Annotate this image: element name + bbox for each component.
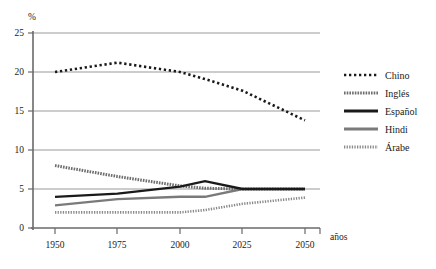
y-tick-0: 0 (19, 223, 24, 233)
y-axis (28, 31, 33, 230)
x-tick-2025: 2025 (233, 240, 252, 250)
y-tick-5: 5 (19, 184, 24, 194)
x-axis-unit-label: años (330, 232, 348, 242)
series-line-hindi (55, 189, 305, 205)
y-tick-10: 10 (15, 145, 25, 155)
series-lines (55, 63, 305, 213)
series-line-arabe (55, 198, 305, 213)
legend-label-arabe: Árabe (385, 142, 410, 153)
legend-label-espanol: Español (385, 106, 417, 117)
series-line-chino (55, 63, 305, 121)
y-tick-15: 15 (15, 106, 25, 116)
x-tick-2000: 2000 (171, 240, 190, 250)
x-tick-1975: 1975 (108, 240, 127, 250)
legend-label-chino: Chino (385, 70, 409, 81)
legend-label-hindi: Hindi (385, 124, 408, 135)
gridlines (33, 33, 320, 189)
chart-svg: 25 20 15 10 5 0 % 1950 1975 2000 2025 20… (0, 0, 436, 269)
x-tick-2050: 2050 (296, 240, 315, 250)
x-tick-1950: 1950 (46, 240, 65, 250)
y-tick-25: 25 (15, 28, 25, 38)
chart-legend: Chino Inglés Español Hindi Árabe (344, 70, 417, 153)
x-axis (31, 228, 320, 234)
line-chart: 25 20 15 10 5 0 % 1950 1975 2000 2025 20… (0, 0, 436, 269)
y-tick-20: 20 (15, 67, 25, 77)
y-axis-unit-label: % (28, 12, 36, 22)
legend-label-ingles: Inglés (385, 88, 410, 99)
